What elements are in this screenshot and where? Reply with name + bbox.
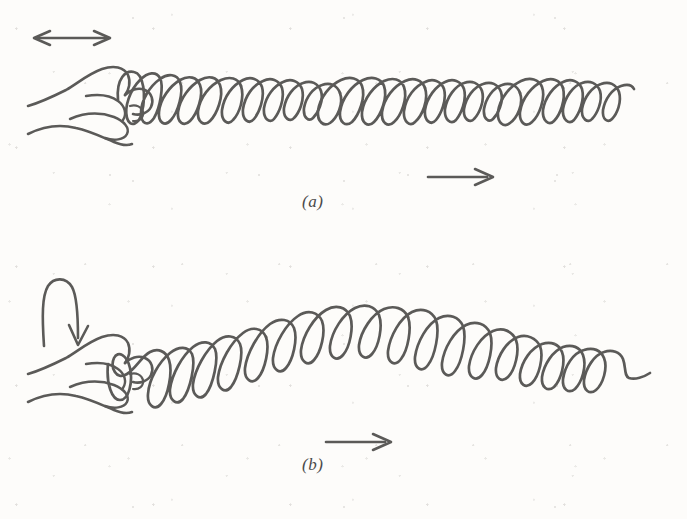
propagation-arrow-a xyxy=(428,169,493,185)
panel-b xyxy=(28,279,650,450)
panel-b-caption: (b) xyxy=(302,455,323,475)
panel-a xyxy=(28,31,634,185)
hand-icon xyxy=(28,67,152,145)
hand-icon xyxy=(28,335,152,413)
double-headed-horizontal-arrow xyxy=(34,31,110,45)
curved-down-arrow xyxy=(43,279,88,346)
wave-on-spring-figure xyxy=(0,0,687,519)
propagation-arrow-b xyxy=(326,434,391,450)
spring-longitudinal xyxy=(118,72,634,125)
spring-transverse xyxy=(108,306,650,408)
panel-a-caption: (a) xyxy=(302,192,323,212)
